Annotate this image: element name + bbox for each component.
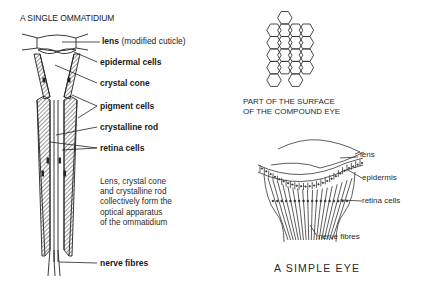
hexagon-facet <box>288 24 302 37</box>
diagram-drawings <box>0 0 429 289</box>
hexagon-facet <box>278 49 292 62</box>
note-line: and crystalline rod <box>100 187 210 197</box>
caption-line: OF THE COMPOUND EYE <box>243 107 340 117</box>
hexagon-facet <box>278 12 292 25</box>
hexagon-facet <box>267 49 281 62</box>
hexagon-facet <box>278 61 292 74</box>
simple-eye-title: A SIMPLE EYE <box>274 262 360 274</box>
ommatidium-title: A SINGLE OMMATIDIUM <box>20 13 114 23</box>
hexagon-facet <box>267 74 281 87</box>
hexagon-facet <box>278 37 292 49</box>
hexagon-facet <box>288 49 302 62</box>
label-lens: lens (modified cuticle) <box>102 36 186 46</box>
caption-line: PART OF THE SURFACE <box>243 97 340 107</box>
simple-eye-label-epidermis: epidermis <box>362 173 397 182</box>
hexagon-facet <box>267 37 281 49</box>
hexagon-facet <box>267 24 281 37</box>
simple-eye-drawing <box>258 140 364 242</box>
hexagon-facet <box>299 37 313 49</box>
hexagon-facet <box>278 24 292 37</box>
note-line: Lens, crystal cone <box>100 177 210 187</box>
label-retina-cells: retina cells <box>100 143 144 153</box>
label-lens-note: (modified cuticle) <box>121 36 185 46</box>
label-epidermal-cells: epidermal cells <box>100 57 161 67</box>
compound-eye-caption: PART OF THE SURFACE OF THE COMPOUND EYE <box>243 97 340 117</box>
simple-eye-label-nerve: nerve fibres <box>318 232 360 241</box>
hexagon-facet <box>288 74 302 87</box>
label-nerve-fibres: nerve fibres <box>100 258 148 268</box>
compound-eye-hexagon-grid <box>267 12 314 87</box>
label-lens-text: lens <box>102 36 119 46</box>
simple-eye-label-retina: retina cells <box>362 196 400 205</box>
hexagon-facet <box>288 61 302 74</box>
hexagon-facet <box>267 61 281 74</box>
ommatidium-drawing <box>22 34 88 276</box>
note-line: optical apparatus <box>100 208 210 218</box>
note-line: collectively form the <box>100 197 210 207</box>
label-crystalline-rod: crystalline rod <box>100 122 158 132</box>
hexagon-facet <box>288 37 302 49</box>
hexagon-facet <box>299 61 313 74</box>
hexagon-facet <box>299 24 313 37</box>
label-crystal-cone: crystal cone <box>100 78 150 88</box>
ommatidium-note: Lens, crystal cone and crystalline rod c… <box>100 177 210 228</box>
simple-eye-label-lens: lens <box>360 150 375 159</box>
hexagon-facet <box>299 49 313 62</box>
label-pigment-cells: pigment cells <box>100 101 154 111</box>
note-line: of the ommatidium <box>100 218 210 228</box>
